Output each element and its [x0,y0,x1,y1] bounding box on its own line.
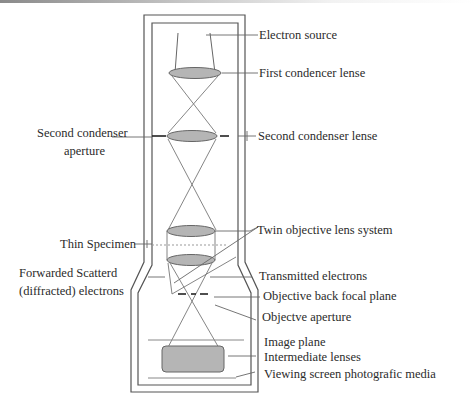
label-second-condenser-lense: Second condenser lense [258,129,378,143]
label-second-condenser-aperture-1: Second condenser [37,126,128,140]
label-twin-objective: Twin objective lens system [257,223,393,237]
first-condenser-lens [169,68,221,79]
label-image-plane: Image plane [264,335,326,349]
label-viewing-screen: Viewing screen photografic media [264,367,436,381]
beam-crossover-2 [168,139,216,230]
label-thin-specimen: Thin Specimen [60,237,137,251]
intermediate-lenses [162,346,224,372]
second-condenser-lens [167,131,217,142]
label-first-condenser-lense: First condencer lense [259,66,366,80]
label-second-condenser-aperture-2: aperture [64,144,105,158]
label-objective-back-focal-plane: Objective back focal plane [263,289,397,303]
label-objective-aperture: Objectve aperture [262,310,352,324]
objective-lens-upper [167,226,215,237]
label-forwarded-scattered-2: (diffracted) electrons [19,284,124,298]
diagram-canvas: Electron source First condencer lense Se… [0,0,475,407]
label-electron-source: Electron source [259,28,338,42]
tem-diagram: Electron source First condencer lense Se… [0,0,475,407]
label-intermediate-lenses: Intermediate lenses [264,350,361,364]
beam-crossover-1 [168,76,218,133]
label-forwarded-scattered-1: Forwarded Scatterd [19,266,118,280]
label-transmitted-electrons: Transmitted electrons [259,269,367,283]
